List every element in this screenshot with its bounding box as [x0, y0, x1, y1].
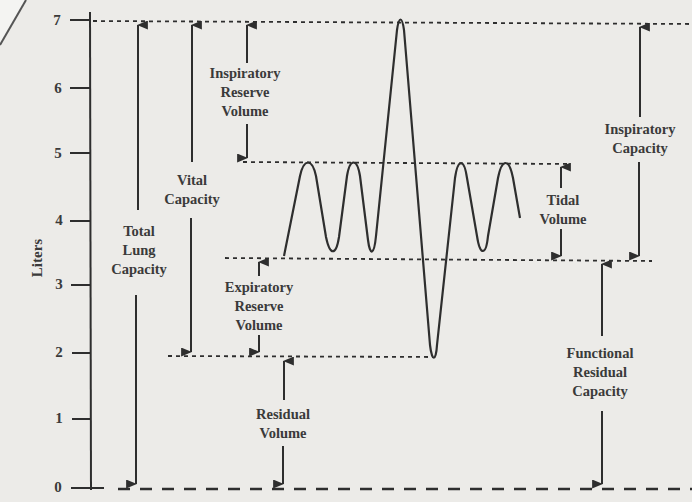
max-expiration-line — [168, 356, 433, 357]
y-tick-4: 4 — [55, 212, 63, 229]
y-axis-label: Liters — [29, 239, 46, 277]
y-tick-1: 1 — [55, 410, 63, 427]
tidal-peak-line — [243, 162, 570, 164]
y-axis — [70, 12, 104, 490]
tidal-volume-label: Tidal Volume — [540, 191, 587, 229]
total-lung-capacity-label: Total Lung Capacity — [111, 222, 167, 279]
spirogram-trace — [284, 20, 520, 358]
y-tick-5: 5 — [54, 145, 62, 162]
y-tick-3: 3 — [55, 276, 63, 293]
y-tick-0: 0 — [54, 479, 62, 496]
diagram-graphics — [0, 0, 692, 502]
residual-volume-label: Residual Volume — [256, 405, 310, 443]
level-7-line — [93, 21, 692, 24]
vital-capacity-label: Vital Capacity — [164, 171, 220, 209]
functional-residual-capacity-label: Functional Residual Capacity — [567, 344, 634, 401]
lung-volume-diagram: 7 6 5 4 3 2 1 0 Liters Inspiratory Reser… — [0, 0, 692, 502]
y-tick-2: 2 — [55, 344, 63, 361]
expiratory-reserve-volume-label: Expiratory Reserve Volume — [225, 278, 293, 335]
inspiratory-capacity-label: Inspiratory Capacity — [605, 120, 676, 158]
tidal-trough-line — [225, 258, 652, 261]
inspiratory-reserve-volume-label: Inspiratory Reserve Volume — [210, 64, 281, 121]
y-tick-6: 6 — [54, 80, 62, 97]
y-tick-7: 7 — [53, 12, 61, 29]
